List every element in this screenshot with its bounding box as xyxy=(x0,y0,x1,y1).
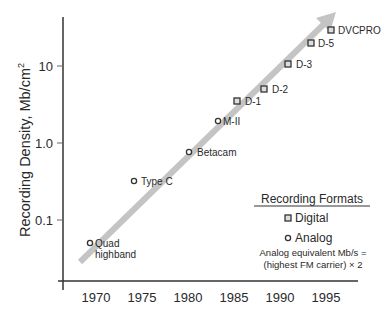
y-tick-label: 10 xyxy=(39,59,53,74)
x-tick-label: 1980 xyxy=(174,290,203,305)
trend-arrow xyxy=(80,24,324,262)
point-label-betacam: Betacam xyxy=(197,147,236,158)
series-analog: Quadhighband Type C Betacam M-II xyxy=(87,116,240,260)
square-marker-icon xyxy=(261,86,267,92)
legend-title: Recording Formats xyxy=(261,192,363,206)
analog-equivalence-note: Analog equivalent Mb/s = (highest FM car… xyxy=(260,247,367,270)
note-line-1: Analog equivalent Mb/s = xyxy=(260,247,367,258)
point-label-d3: D-3 xyxy=(296,59,313,70)
x-tick-label: 1995 xyxy=(312,290,341,305)
legend-item-analog: Analog xyxy=(295,231,332,245)
x-tick-label: 1970 xyxy=(82,290,111,305)
square-marker-icon xyxy=(285,215,291,221)
y-tick-label: 1.0 xyxy=(35,136,53,151)
square-marker-icon xyxy=(234,98,240,104)
point-label-d5: D-5 xyxy=(318,38,335,49)
circle-marker-icon xyxy=(285,235,290,240)
x-tick-label: 1975 xyxy=(128,290,157,305)
point-label-type-c: Type C xyxy=(141,176,173,187)
recording-density-chart: 10 1.0 0.1 Recording Density, Mb/cm2 197… xyxy=(0,0,385,312)
y-ticks: 10 1.0 0.1 xyxy=(35,59,63,228)
note-line-2: (highest FM carrier) × 2 xyxy=(264,259,363,270)
legend: Recording Formats Digital Analog xyxy=(254,192,370,245)
y-axis-label: Recording Density, Mb/cm2 xyxy=(16,63,33,237)
circle-marker-icon xyxy=(215,118,220,123)
square-marker-icon xyxy=(308,40,314,46)
x-tick-label: 1985 xyxy=(220,290,249,305)
circle-marker-icon xyxy=(186,149,191,154)
point-label-dvcpro: DVCPRO xyxy=(338,25,381,36)
point-label-m-ii: M-II xyxy=(223,116,240,127)
point-label-d1: D-1 xyxy=(245,96,262,107)
point-label-quad: Quadhighband xyxy=(95,238,136,260)
x-tick-labels: 1970 1975 1980 1985 1990 1995 xyxy=(82,290,341,305)
legend-item-digital: Digital xyxy=(295,211,328,225)
circle-marker-icon xyxy=(131,178,136,183)
square-marker-icon xyxy=(285,61,291,67)
square-marker-icon xyxy=(328,27,334,33)
point-label-d2: D-2 xyxy=(272,84,289,95)
y-tick-label: 0.1 xyxy=(35,213,53,228)
circle-marker-icon xyxy=(87,240,92,245)
x-tick-label: 1990 xyxy=(266,290,295,305)
